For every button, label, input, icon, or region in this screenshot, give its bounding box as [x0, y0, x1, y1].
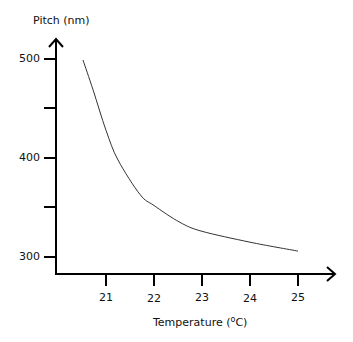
- x-axis-label-text: Temperature (: [153, 316, 230, 329]
- pitch-curve: [83, 60, 298, 251]
- x-tick-label-24: 24: [235, 292, 265, 305]
- x-ticks: [106, 274, 298, 286]
- y-axis-label: Pitch (nm): [33, 14, 90, 27]
- x-axis-label: Temperature (oC): [153, 315, 247, 329]
- y-ticks: [44, 59, 56, 257]
- y-tick-label-300: 300: [0, 250, 40, 263]
- x-tick-label-25: 25: [283, 291, 313, 304]
- x-axis-label-unit: C): [235, 316, 247, 329]
- y-tick-label-400: 400: [0, 151, 40, 164]
- x-tick-label-22: 22: [139, 292, 169, 305]
- x-tick-label-21: 21: [91, 291, 121, 304]
- y-tick-label-500: 500: [0, 52, 40, 65]
- x-tick-label-23: 23: [187, 291, 217, 304]
